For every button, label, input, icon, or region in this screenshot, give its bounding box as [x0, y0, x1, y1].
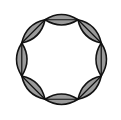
lens-chord: [22, 20, 45, 43]
lens-chord: [78, 76, 101, 99]
diagram-canvas: Ring of eight lenses: [0, 0, 121, 120]
lens-chord: [78, 20, 101, 43]
lens-chord: [22, 76, 45, 99]
lens-ring: [0, 0, 121, 120]
